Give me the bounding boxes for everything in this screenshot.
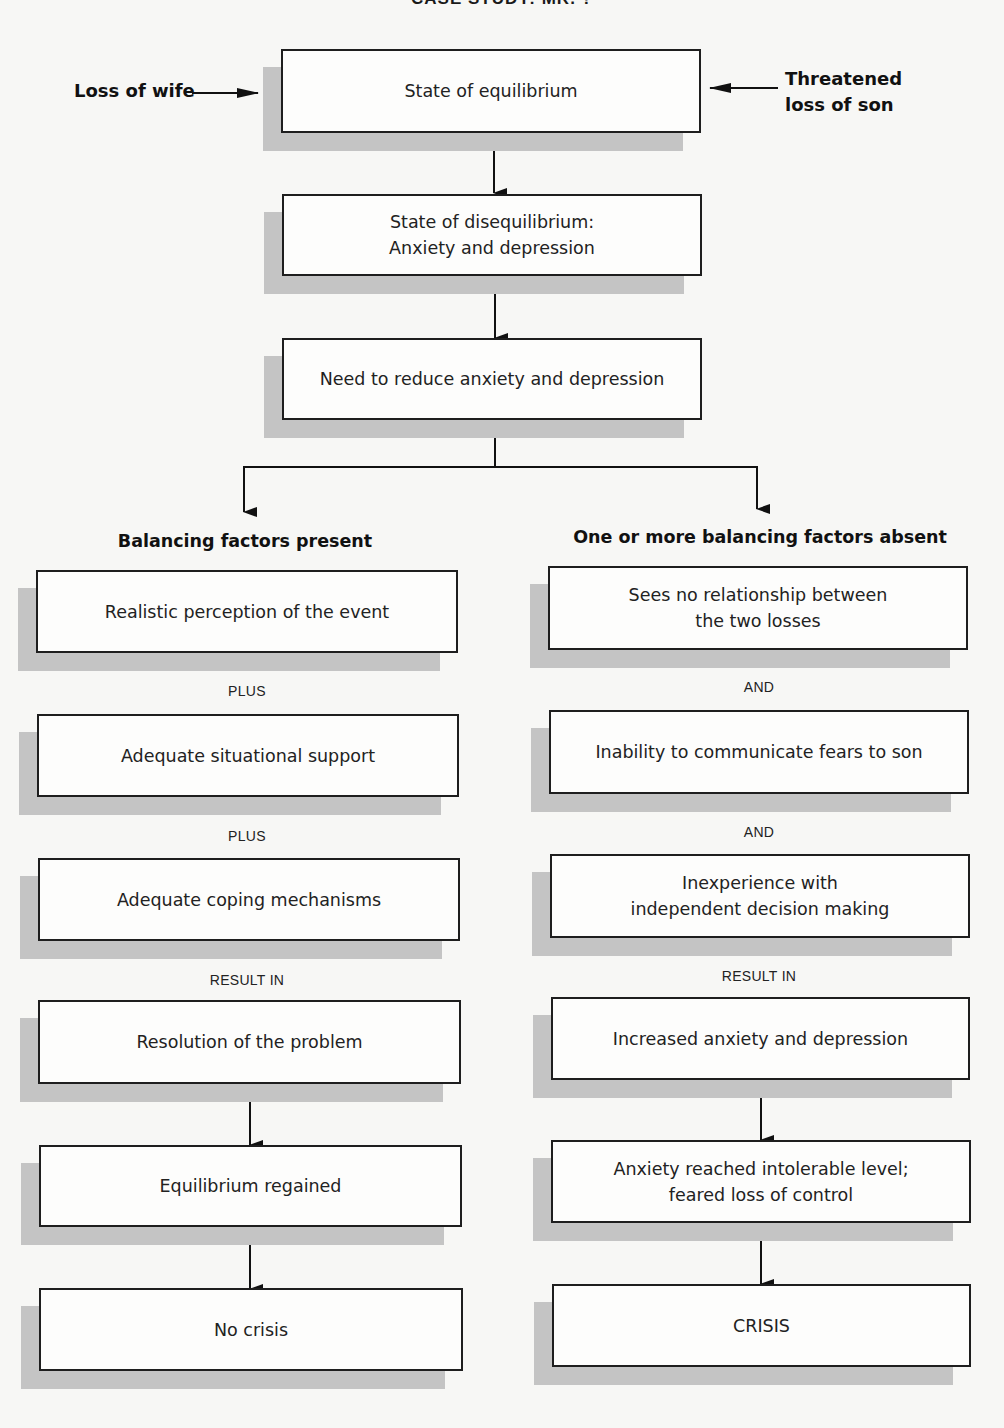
node-sees-no-relationship: Sees no relationship between the two los… bbox=[548, 566, 968, 650]
node-label: Realistic perception of the event bbox=[105, 599, 389, 625]
connector-plus-2: PLUS bbox=[36, 828, 458, 844]
node-label: Inability to communicate fears to son bbox=[595, 739, 922, 765]
connector-and-2: AND bbox=[548, 824, 970, 840]
connector-plus-1: PLUS bbox=[36, 683, 458, 699]
input-loss-of-wife: Loss of wife bbox=[74, 78, 195, 104]
node-state-of-equilibrium: State of equilibrium bbox=[281, 49, 701, 133]
node-need-to-reduce: Need to reduce anxiety and depression bbox=[282, 338, 702, 420]
connector-and-1: AND bbox=[548, 679, 970, 695]
node-label: Inexperience with independent decision m… bbox=[631, 870, 890, 922]
node-label: Equilibrium regained bbox=[160, 1173, 342, 1199]
input-threatened-loss-of-son: Threatened loss of son bbox=[785, 66, 902, 118]
connector-result-in-left: RESULT IN bbox=[36, 972, 458, 988]
node-label: State of disequilibrium: Anxiety and dep… bbox=[389, 209, 595, 261]
node-label: Increased anxiety and depression bbox=[613, 1026, 908, 1052]
node-label: State of equilibrium bbox=[404, 78, 577, 104]
node-equilibrium-regained: Equilibrium regained bbox=[39, 1145, 462, 1227]
node-coping-mechanisms: Adequate coping mechanisms bbox=[38, 858, 460, 941]
node-crisis: CRISIS bbox=[552, 1284, 971, 1367]
header-balancing-factors-present: Balancing factors present bbox=[40, 531, 450, 551]
node-label: CRISIS bbox=[733, 1313, 790, 1339]
node-situational-support: Adequate situational support bbox=[37, 714, 459, 797]
node-label: Adequate situational support bbox=[121, 743, 375, 769]
connector-result-in-right: RESULT IN bbox=[548, 968, 970, 984]
node-label: No crisis bbox=[214, 1317, 288, 1343]
node-inability-to-communicate: Inability to communicate fears to son bbox=[549, 710, 969, 794]
node-label: Sees no relationship between the two los… bbox=[629, 582, 888, 634]
node-intolerable-level: Anxiety reached intolerable level; feare… bbox=[551, 1140, 971, 1223]
node-label: Adequate coping mechanisms bbox=[117, 887, 381, 913]
header-balancing-factors-absent: One or more balancing factors absent bbox=[540, 527, 980, 547]
node-label: Resolution of the problem bbox=[136, 1029, 362, 1055]
node-no-crisis: No crisis bbox=[39, 1288, 463, 1371]
node-increased-anxiety: Increased anxiety and depression bbox=[551, 997, 970, 1080]
node-realistic-perception: Realistic perception of the event bbox=[36, 570, 458, 653]
node-label: Anxiety reached intolerable level; feare… bbox=[613, 1156, 908, 1208]
node-label: Need to reduce anxiety and depression bbox=[320, 366, 665, 392]
node-inexperience-decision-making: Inexperience with independent decision m… bbox=[550, 854, 970, 938]
node-resolution-of-problem: Resolution of the problem bbox=[38, 1000, 461, 1084]
node-state-of-disequilibrium: State of disequilibrium: Anxiety and dep… bbox=[282, 194, 702, 276]
